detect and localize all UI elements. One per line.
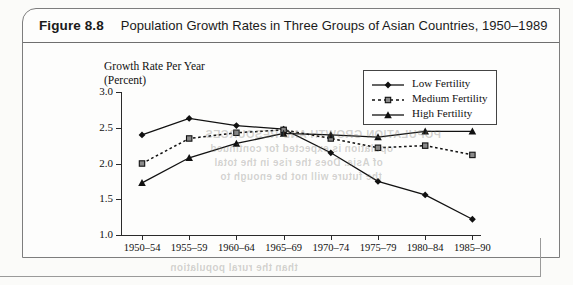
square-marker [139,161,144,166]
square-marker [385,97,390,102]
diamond-marker [469,216,476,223]
square-marker [234,130,239,135]
chart-plot-area: Growth Rate Per Year (Percent) 1.01.52.0… [23,44,559,257]
diamond-marker [186,115,193,122]
diamond-marker [385,81,392,88]
legend-marker-triangle-icon [371,107,405,119]
legend-marker-square-icon [371,92,405,104]
square-marker [470,152,475,157]
page-bottom-rule [0,276,540,277]
legend-label: Medium Fertility [412,92,487,104]
diamond-marker [233,122,240,129]
page-right-rule [540,238,541,277]
legend-marker-diamond-icon [371,77,405,89]
diamond-marker [375,178,382,185]
square-marker [423,143,428,148]
legend-item: High Fertility [371,105,487,120]
legend-item: Low Fertility [371,75,487,90]
legend-item: Medium Fertility [371,90,487,105]
diamond-marker [422,192,429,199]
legend-label: High Fertility [412,107,472,119]
chart-legend: Low FertilityMedium FertilityHigh Fertil… [363,70,497,125]
figure-number: Figure 8.8 [39,18,104,33]
figure-title-bar: Figure 8.8 Population Growth Rates in Th… [23,9,559,43]
legend-label: Low Fertility [412,77,470,89]
diamond-marker [327,149,334,156]
square-marker [187,136,192,141]
diamond-marker [139,132,146,139]
square-marker [375,145,380,150]
figure-title: Population Growth Rates in Three Groups … [121,18,548,33]
triangle-marker [138,179,146,186]
